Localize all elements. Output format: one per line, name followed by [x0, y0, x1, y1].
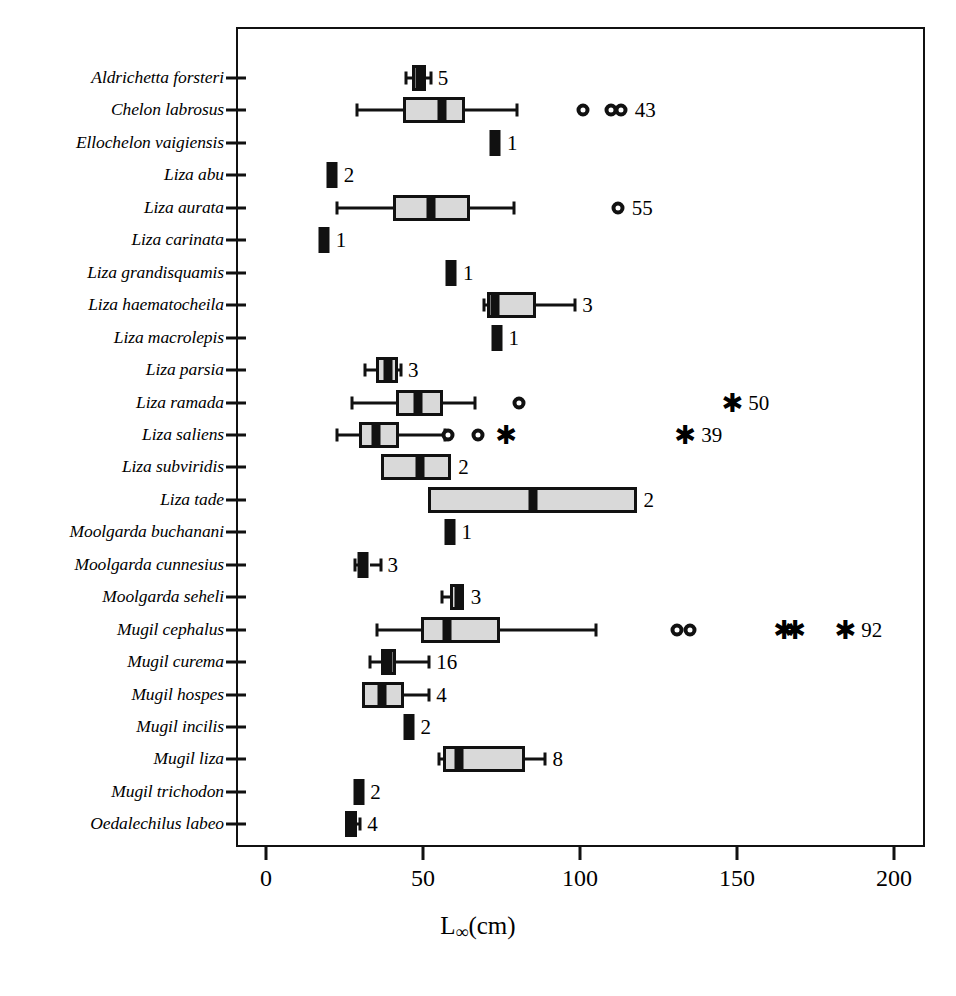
- sample-count-label: 2: [344, 165, 355, 186]
- median-line: [414, 390, 423, 416]
- outlier-circle: [512, 396, 525, 409]
- sample-count-label: 8: [552, 749, 563, 770]
- median-line: [426, 195, 435, 221]
- sample-count-label: 16: [436, 652, 457, 673]
- box-solid: [403, 714, 414, 740]
- whisker-upper: [500, 628, 596, 631]
- whisker-upper: [443, 401, 474, 404]
- box-solid: [444, 519, 455, 545]
- y-axis-tick: [226, 369, 246, 372]
- sample-count-label: 1: [463, 262, 474, 283]
- y-axis-label-liza-haematocheila: Liza haematocheila: [88, 296, 224, 314]
- sample-count-label: 3: [582, 295, 593, 316]
- whisker-cap-lower: [368, 656, 371, 669]
- y-axis-tick: [226, 726, 246, 729]
- median-line: [415, 65, 424, 91]
- y-axis-tick: [226, 206, 246, 209]
- y-axis-label-chelon-labrosus: Chelon labrosus: [111, 102, 224, 120]
- x-axis-tick-label: 50: [411, 864, 435, 892]
- y-axis-tick: [226, 239, 246, 242]
- outlier-circle: [671, 623, 684, 636]
- y-axis-tick: [226, 304, 246, 307]
- y-axis-label-liza-ramada: Liza ramada: [136, 394, 224, 412]
- whisker-cap-lower: [404, 72, 407, 85]
- whisker-cap-lower: [356, 104, 359, 117]
- median-line: [384, 649, 393, 675]
- y-axis-label-liza-subviridis: Liza subviridis: [122, 459, 224, 477]
- median-line: [371, 422, 380, 448]
- y-axis-tick: [226, 661, 246, 664]
- whisker-cap-upper: [473, 396, 476, 409]
- outlier-circle: [471, 428, 484, 441]
- median-line: [455, 746, 464, 772]
- y-axis-tick: [226, 531, 246, 534]
- x-axis-tick-label: 200: [876, 864, 912, 892]
- y-axis-tick: [226, 141, 246, 144]
- median-line: [378, 682, 387, 708]
- whisker-cap-lower: [363, 364, 366, 377]
- y-axis-label-moolgarda-cunnesius: Moolgarda cunnesius: [74, 556, 224, 574]
- x-axis-tick: [893, 847, 896, 860]
- sample-count-label: 4: [436, 684, 447, 705]
- whisker-upper: [396, 661, 429, 664]
- whisker-cap-upper: [379, 558, 382, 571]
- whisker-upper: [470, 206, 514, 209]
- x-axis-tick-label: 100: [562, 864, 598, 892]
- y-axis-label-mugil-cephalus: Mugil cephalus: [117, 621, 224, 639]
- sample-count-label: 5: [438, 68, 449, 89]
- median-line: [455, 584, 464, 610]
- median-line: [384, 357, 393, 383]
- outlier-circle: [611, 201, 624, 214]
- box-iqr: [421, 617, 500, 643]
- whisker-cap-lower: [354, 558, 357, 571]
- y-axis-label-liza-tade: Liza tade: [160, 491, 224, 509]
- x-axis-tick: [579, 847, 582, 860]
- whisker-cap-lower: [437, 753, 440, 766]
- box-iqr: [403, 97, 466, 123]
- y-axis-tick: [226, 401, 246, 404]
- x-axis-title-unit: (cm): [468, 912, 515, 939]
- whisker-cap-upper: [359, 818, 362, 831]
- whisker-cap-lower: [335, 201, 338, 214]
- median-line: [415, 454, 424, 480]
- y-axis-tick: [226, 498, 246, 501]
- sample-count-label: 2: [644, 489, 655, 510]
- y-axis-label-liza-macrolepis: Liza macrolepis: [114, 329, 224, 347]
- sample-count-label: 4: [367, 814, 378, 835]
- outlier-circle: [442, 428, 455, 441]
- y-axis-label-oedalechilus-labeo: Oedalechilus labeo: [90, 816, 224, 834]
- whisker-upper: [536, 304, 575, 307]
- y-axis-tick: [226, 563, 246, 566]
- x-axis-tick: [265, 847, 268, 860]
- median-line: [437, 97, 446, 123]
- whisker-cap-upper: [544, 753, 547, 766]
- x-axis-title-base: L: [440, 912, 455, 939]
- whisker-cap-upper: [513, 201, 516, 214]
- median-line: [528, 487, 537, 513]
- x-axis-tick: [736, 847, 739, 860]
- box-solid: [490, 130, 501, 156]
- whisker-cap-lower: [376, 623, 379, 636]
- whisker-lower: [370, 661, 381, 664]
- x-axis-title-subscript: ∞: [456, 922, 469, 942]
- whisker-upper: [404, 693, 429, 696]
- outlier-circle: [683, 623, 696, 636]
- whisker-upper: [525, 758, 545, 761]
- y-axis-tick: [226, 790, 246, 793]
- y-axis-label-mugil-hospes: Mugil hospes: [131, 686, 224, 704]
- sample-count-label: 50: [748, 392, 769, 413]
- whisker-cap-upper: [428, 656, 431, 669]
- y-axis-label-liza-grandisquamis: Liza grandisquamis: [87, 264, 224, 282]
- box-solid: [358, 552, 369, 578]
- outlier-circle: [577, 104, 590, 117]
- sample-count-label: 1: [507, 132, 518, 153]
- median-line: [491, 292, 500, 318]
- y-axis-label-moolgarda-buchanani: Moolgarda buchanani: [70, 524, 224, 542]
- sample-count-label: 3: [408, 360, 419, 381]
- box-solid: [491, 325, 502, 351]
- box-solid: [446, 260, 457, 286]
- sample-count-label: 2: [458, 457, 469, 478]
- median-line: [442, 617, 451, 643]
- whisker-cap-lower: [440, 591, 443, 604]
- y-axis-label-liza-carinata: Liza carinata: [131, 232, 224, 250]
